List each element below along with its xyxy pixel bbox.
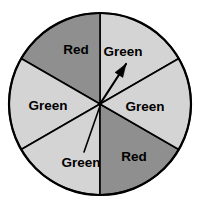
sector-label-right: Green	[125, 99, 164, 114]
spinner-figure: Green Red Green Green Red Green	[0, 0, 202, 207]
sector-label-bottom-right: Red	[121, 149, 147, 164]
sector-label-left: Green	[28, 98, 67, 113]
sector-label-top-left: Red	[63, 42, 89, 57]
sector-label-top-right: Green	[103, 44, 142, 59]
spinner-diagram: Green Red Green Green Red Green	[0, 0, 202, 207]
sector-label-bottom-left: Green	[61, 155, 100, 170]
